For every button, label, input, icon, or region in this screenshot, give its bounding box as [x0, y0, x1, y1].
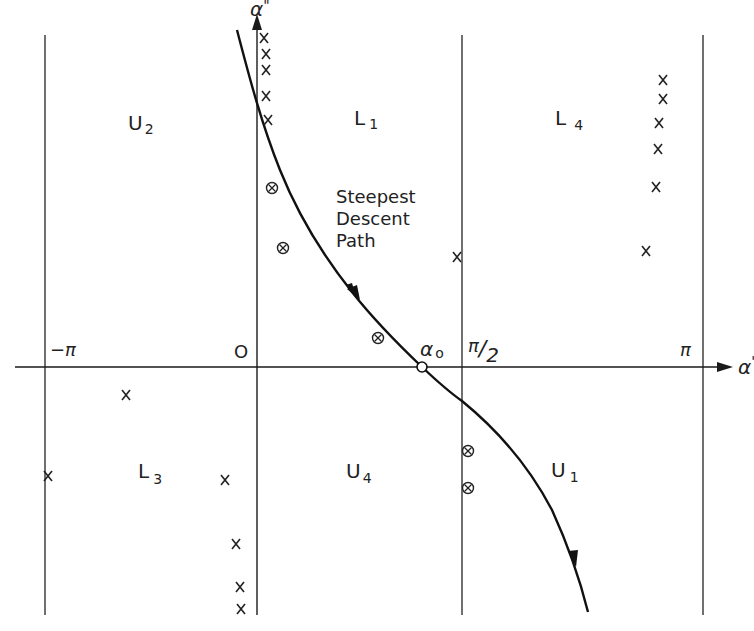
pole-x-icon [642, 246, 650, 256]
region-label-l1: L1 [354, 106, 378, 132]
pole-x-icon [659, 75, 667, 85]
pole-x-icon [453, 252, 461, 262]
pole-x-icon [262, 91, 270, 101]
crossed-circle-icon [373, 333, 384, 344]
crossed-circle-icon [463, 446, 474, 457]
crossed-circle-icon [267, 183, 278, 194]
pole-x-icon [654, 144, 662, 154]
saddle-point-label: αo [420, 337, 444, 361]
pole-x-icon [122, 390, 130, 400]
tick-zero: O [234, 341, 248, 362]
region-label-l4: L4 [555, 106, 583, 133]
crossed-circle-icon [463, 483, 474, 494]
vertical-axis-label: α" [250, 0, 270, 21]
horizontal-axis-arrow-icon [717, 362, 733, 372]
crossed-circle-icon [278, 243, 289, 254]
pole-x-icon [260, 33, 268, 43]
path-label: Steepest Descent Path [336, 186, 421, 251]
tick-neg-pi: −π [50, 339, 77, 360]
steepest-descent-diagram: α" α' −π O π/2 π αo Steepest Descent Pat… [0, 0, 754, 631]
pole-x-icon [262, 49, 270, 59]
region-label-l3: L3 [138, 459, 162, 487]
horizontal-axis-label: α' [738, 353, 754, 379]
region-label-u1: U1 [551, 458, 579, 485]
pole-x-icon [232, 539, 240, 549]
saddle-point-marker [417, 362, 427, 372]
pole-x-icon [237, 604, 245, 614]
pole-x-icon [655, 118, 663, 128]
pole-x-icon [264, 115, 272, 125]
steepest-descent-curve [237, 30, 588, 612]
tick-pi: π [680, 339, 692, 360]
region-label-u4: U4 [346, 459, 372, 486]
pole-x-icon [652, 182, 660, 192]
pole-x-icon [236, 582, 244, 592]
region-label-u2: U2 [128, 111, 154, 137]
pole-x-icon [262, 65, 270, 75]
pole-x-icon [659, 94, 667, 104]
tick-half-pi: π/2 [468, 335, 499, 367]
pole-x-icon [221, 475, 229, 485]
